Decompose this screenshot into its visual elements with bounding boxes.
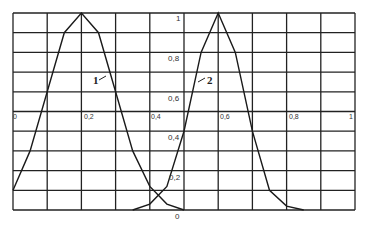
x-tick-0: 0 — [13, 113, 17, 120]
x-tick-0-8: 0,8 — [289, 113, 299, 120]
x-tick-0-6: 0,6 — [220, 113, 230, 120]
chart-canvas: 0 0,2 0,4 0,6 0,8 1 1 0,8 0,6 0,4 0,2 0 … — [0, 0, 366, 229]
curve-1-label: 1 — [93, 74, 99, 86]
x-tick-0-4: 0,4 — [151, 113, 161, 120]
curve-2-leader — [198, 78, 205, 82]
x-tick-0-2: 0,2 — [84, 113, 94, 120]
y-tick-0-6: 0,6 — [168, 94, 180, 103]
y-tick-0-4: 0,4 — [168, 133, 180, 142]
y-tick-0: 0 — [175, 212, 180, 221]
x-tick-1: 1 — [349, 113, 353, 120]
curve-2-label: 2 — [207, 74, 213, 86]
curve-1-leader — [99, 76, 106, 80]
y-tick-1: 1 — [176, 14, 181, 23]
y-tick-0-8: 0,8 — [168, 54, 180, 63]
grid — [13, 13, 355, 210]
y-tick-0-2: 0,2 — [169, 173, 181, 182]
